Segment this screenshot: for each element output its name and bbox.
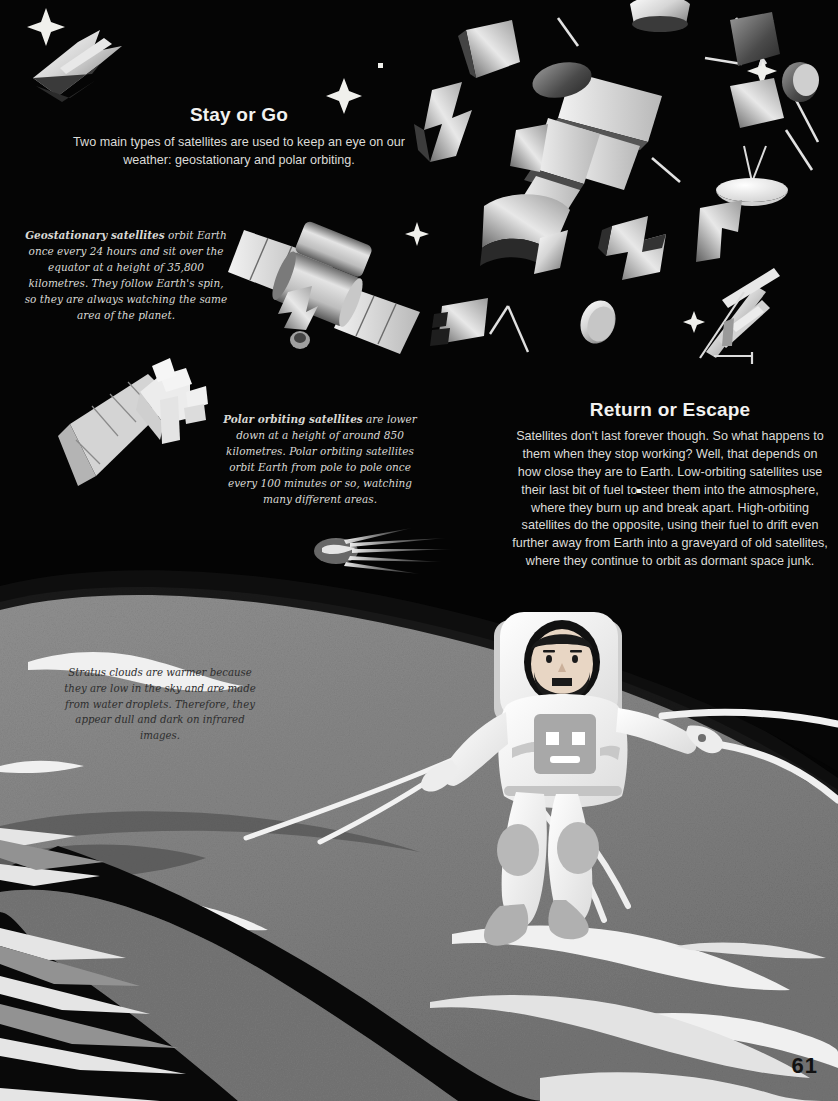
illustration-page: Stay or Go Two main types of satellites … bbox=[0, 0, 838, 1101]
chest-panel bbox=[534, 714, 596, 774]
stratus-caption: Stratus clouds are warmer because they a… bbox=[60, 665, 260, 744]
return-or-escape-heading: Return or Escape bbox=[512, 399, 828, 421]
left-boot bbox=[484, 904, 528, 946]
page-number: 61 bbox=[792, 1053, 818, 1079]
return-or-escape-body: Satellites don't last forever though. So… bbox=[512, 428, 828, 571]
geostationary-caption: Geostationary satellites orbit Earth onc… bbox=[22, 228, 230, 324]
polar-caption-text: are lower down at a height of around 850… bbox=[226, 413, 417, 505]
geostationary-caption-text: orbit Earth once every 24 hours and sit … bbox=[25, 229, 228, 321]
left-glove bbox=[421, 760, 458, 792]
polar-caption-lead: Polar orbiting satellites bbox=[223, 413, 363, 425]
stay-or-go-heading: Stay or Go bbox=[69, 104, 409, 126]
tether-cord bbox=[662, 712, 838, 800]
geostationary-caption-lead: Geostationary satellites bbox=[25, 229, 164, 241]
stay-or-go-body: Two main types of satellites are used to… bbox=[60, 134, 418, 170]
polar-caption: Polar orbiting satellites are lower down… bbox=[222, 412, 418, 508]
